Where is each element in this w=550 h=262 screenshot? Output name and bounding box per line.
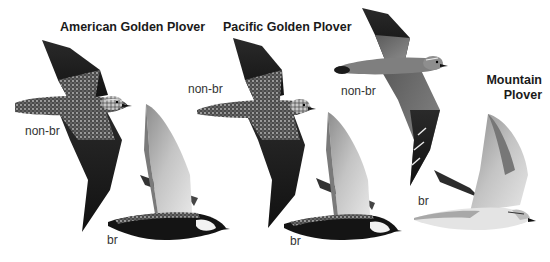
plumage-label-american-nonbreeding: non-br [25, 124, 60, 138]
species-title-mountain-line2: Plover [470, 88, 542, 103]
species-title-mountain-plover: Mountain Plover [470, 73, 542, 103]
plumage-label-mountain-breeding: br [418, 194, 429, 208]
plumage-label-pacific-breeding: br [290, 234, 301, 248]
american-golden-plover-breeding-bird [108, 104, 230, 240]
plumage-label-mountain-nonbreeding: non-br [341, 84, 376, 98]
pacific-golden-plover-breeding-bird [284, 112, 402, 240]
species-title-american-golden-plover: American Golden Plover [60, 20, 205, 34]
plumage-label-american-breeding: br [107, 233, 118, 247]
plumage-label-pacific-nonbreeding: non-br [188, 82, 223, 96]
species-title-pacific-golden-plover: Pacific Golden Plover [223, 20, 352, 34]
bird-illustrations [0, 0, 550, 262]
species-title-mountain-line1: Mountain [470, 73, 542, 88]
pacific-golden-plover-nonbreeding-bird [197, 38, 316, 228]
plover-illustration-plate: American Golden Plover Pacific Golden Pl… [0, 0, 550, 262]
